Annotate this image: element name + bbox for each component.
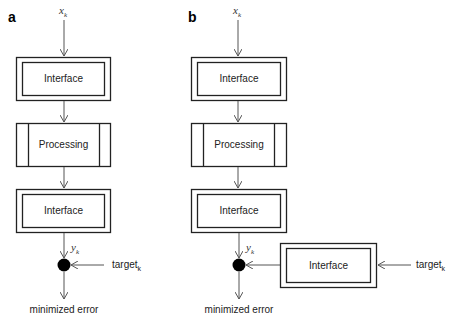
interface-block-b2: Interface <box>192 190 287 233</box>
panel-b: b xk Interface Processing Interface yk <box>188 4 446 315</box>
result-label-b: minimized error <box>205 304 275 315</box>
panel-a: a xk Interface Processing Interface yk t… <box>8 4 142 315</box>
input-label-a: xk <box>58 4 68 19</box>
processing-block-a: Processing <box>17 124 111 167</box>
panel-label-b: b <box>188 9 197 25</box>
output-label-b: yk <box>245 241 255 256</box>
interface-block-target-b: Interface <box>281 244 377 288</box>
result-label-a: minimized error <box>30 304 100 315</box>
output-label-a: yk <box>70 241 80 256</box>
input-label-b: xk <box>232 4 242 19</box>
interface-block-a2: Interface <box>17 190 111 233</box>
target-label-b: targetk <box>416 259 446 272</box>
svg-text:Interface: Interface <box>44 205 83 216</box>
target-label-a: targetk <box>112 259 142 272</box>
svg-text:Interface: Interface <box>220 73 259 84</box>
panel-label-a: a <box>8 9 16 25</box>
svg-text:Interface: Interface <box>220 205 259 216</box>
svg-text:Interface: Interface <box>44 73 83 84</box>
sum-node-a <box>58 259 71 272</box>
processing-block-b: Processing <box>192 124 287 167</box>
svg-text:Processing: Processing <box>214 139 263 150</box>
interface-block-b1: Interface <box>192 58 287 101</box>
svg-text:Processing: Processing <box>39 139 88 150</box>
svg-text:Interface: Interface <box>309 260 348 271</box>
sum-node-b <box>233 259 246 272</box>
interface-block-a1: Interface <box>17 58 111 101</box>
diagram: a xk Interface Processing Interface yk t… <box>0 0 454 326</box>
